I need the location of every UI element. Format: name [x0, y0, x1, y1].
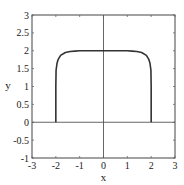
x-tick-label: 1 — [125, 160, 130, 171]
zero-lines — [32, 15, 175, 158]
x-tick-label: 2 — [149, 160, 154, 171]
x-tick-label: 3 — [173, 160, 178, 171]
y-tick-label: 2.5 — [17, 27, 30, 38]
y-tick-label: 1.5 — [17, 63, 30, 74]
x-tick-label: -1 — [75, 160, 83, 171]
y-tick-label: -1 — [21, 153, 29, 164]
y-axis-label: y — [5, 79, 11, 91]
x-tick-label: 0 — [101, 160, 106, 171]
y-tick-label: 0 — [24, 117, 29, 128]
x-tick-label: -2 — [52, 160, 60, 171]
chart-canvas: -3-2-10123-1-0.500.511.522.53 x y — [0, 0, 184, 185]
y-tick-label: 2 — [24, 45, 29, 56]
x-axis-label: x — [101, 171, 107, 183]
tick-labels: -3-2-10123-1-0.500.511.522.53 — [13, 10, 177, 172]
y-tick-label: 3 — [24, 10, 29, 21]
y-tick-label: 1 — [24, 81, 29, 92]
y-tick-label: -0.5 — [13, 135, 29, 146]
x-tick-label: -3 — [28, 160, 36, 171]
y-tick-label: 0.5 — [17, 99, 30, 110]
